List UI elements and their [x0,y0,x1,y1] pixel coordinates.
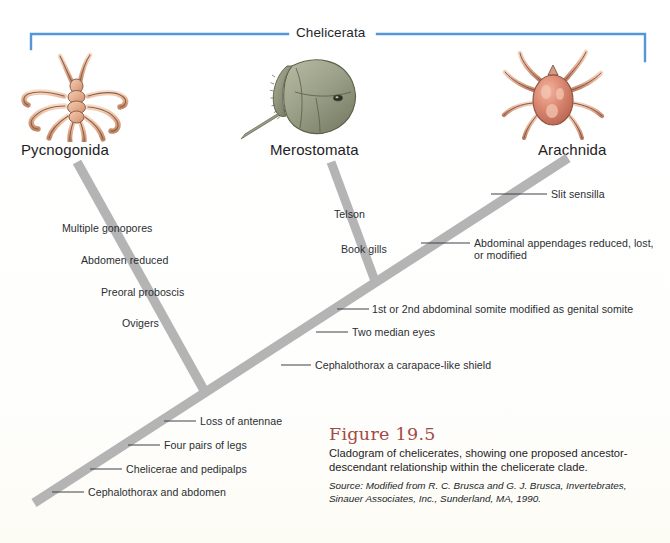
character-label-four-pairs-of-legs: Four pairs of legs [164,439,247,451]
figure-caption-source: Source: Modified from R. C. Brusca and G… [329,480,653,505]
character-label-abdomen-reduced: Abdomen reduced [81,254,168,266]
figure-caption-body: Cladogram of chelicerates, showing one p… [329,447,651,474]
character-label-abdominal-appendages: Abdominal appendages reduced, lost, or m… [474,237,659,262]
character-label-slit-sensilla: Slit sensilla [551,188,605,200]
character-label-telson: Telson [334,208,365,220]
character-label-two-median-eyes: Two median eyes [352,326,435,338]
cladogram-figure: Chelicerata [0,0,670,543]
character-label-carapace-shield: Cephalothorax a carapace-like shield [315,359,491,371]
character-label-cephalothorax-abdomen: Cephalothorax and abdomen [88,486,226,498]
character-label-ovigers: Ovigers [122,317,159,329]
character-label-multiple-gonopores: Multiple gonopores [62,222,152,234]
character-label-chelicerae-pedipalps: Chelicerae and pedipalps [126,463,247,475]
figure-caption: Figure 19.5 Cladogram of chelicerates, s… [329,424,659,505]
figure-caption-title: Figure 19.5 [329,424,659,444]
character-label-genital-somite: 1st or 2nd abdominal somite modified as … [372,303,633,315]
character-label-book-gills: Book gills [341,243,387,255]
character-label-loss-of-antennae: Loss of antennae [200,415,282,427]
character-label-preoral-proboscis: Preoral proboscis [101,286,184,298]
